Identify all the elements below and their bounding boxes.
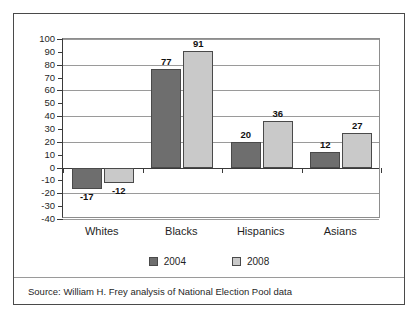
y-axis-tick-label: 100	[39, 34, 55, 44]
category-label-hispanics: Hispanics	[221, 226, 301, 237]
bar-group: -17-12	[63, 39, 143, 217]
bar-group: 1227	[302, 39, 382, 217]
legend-label: 2008	[247, 256, 269, 267]
y-axis-tick-label: -20	[41, 189, 55, 199]
bar-group: 7791	[143, 39, 223, 217]
bar	[183, 51, 213, 168]
legend-item-2008: 2008	[232, 256, 269, 267]
y-axis-tick-label: -40	[41, 214, 55, 224]
bar-value-label: -12	[100, 186, 138, 196]
y-axis-tick-label: 10	[44, 150, 55, 160]
legend-label: 2004	[164, 256, 186, 267]
y-axis-tick-label: 40	[44, 111, 55, 121]
bar	[310, 152, 340, 167]
y-axis-tick-label: -10	[41, 176, 55, 186]
y-axis-tick-label: 70	[44, 73, 55, 83]
y-axis-tick-label: 60	[44, 86, 55, 96]
chart-legend: 20042008	[14, 256, 404, 267]
bar	[231, 142, 261, 168]
y-axis-tick-label: 80	[44, 60, 55, 70]
x-axis-tick	[381, 168, 382, 173]
legend-swatch-icon	[232, 257, 241, 266]
source-note: Source: William H. Frey analysis of Nati…	[28, 286, 292, 297]
bar-value-label: 91	[179, 39, 217, 49]
y-axis-tick	[57, 219, 63, 220]
y-axis-tick-label: 30	[44, 124, 55, 134]
bar-value-label: 27	[338, 121, 376, 131]
y-axis-tick-label: 50	[44, 99, 55, 109]
bar-group: 2036	[222, 39, 302, 217]
bar-value-label: 77	[147, 57, 185, 67]
category-label-blacks: Blacks	[142, 226, 222, 237]
bar-value-label: 36	[259, 109, 297, 119]
bar	[342, 133, 372, 168]
category-label-asians: Asians	[301, 226, 381, 237]
plot-area: 1009080706050403020100-10-20-30-40 -17-1…	[62, 38, 380, 218]
chart-figure: 1009080706050403020100-10-20-30-40 -17-1…	[13, 13, 405, 305]
category-label-whites: Whites	[62, 226, 142, 237]
legend-item-2004: 2004	[149, 256, 186, 267]
gridline	[63, 219, 379, 220]
bar-value-label: 20	[227, 130, 265, 140]
bar	[263, 121, 293, 167]
bar	[72, 168, 102, 190]
y-axis-tick-label: 0	[50, 163, 55, 173]
y-axis-tick-label: -30	[41, 201, 55, 211]
legend-swatch-icon	[149, 257, 158, 266]
y-axis-tick-label: 90	[44, 47, 55, 57]
bar	[151, 69, 181, 168]
bar-value-label: 12	[306, 140, 344, 150]
bar	[104, 168, 134, 183]
y-axis-tick-label: 20	[44, 137, 55, 147]
source-divider	[14, 277, 404, 278]
